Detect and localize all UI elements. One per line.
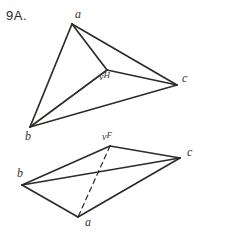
vertex-label-bottom-a: a	[85, 216, 91, 228]
vertex-label-bottom-f: vF	[102, 131, 112, 142]
vertex-label-bottom-c: c	[187, 146, 192, 158]
canvas-background	[0, 0, 244, 236]
vertex-label-top-c: c	[182, 72, 187, 84]
problem-number: 9A.	[6, 8, 27, 23]
vertex-label-bottom-b: b	[17, 167, 23, 179]
vertex-label-top-a: a	[75, 8, 81, 20]
vertex-label-top-h: vH	[99, 71, 110, 82]
vertex-label-top-b: b	[25, 130, 31, 142]
trace-superscript-f: F	[106, 130, 112, 140]
trace-superscript-h: H	[103, 70, 110, 80]
geometry-figure-canvas	[0, 0, 244, 236]
